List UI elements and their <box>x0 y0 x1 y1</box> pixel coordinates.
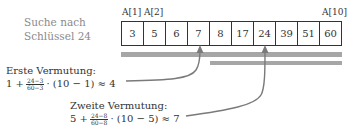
second-guess-arrowhead <box>262 45 269 53</box>
second-guess-arrow <box>186 50 265 116</box>
arrows-layer <box>0 0 360 139</box>
first-guess-arrow <box>126 50 200 81</box>
first-guess-arrowhead <box>197 45 204 53</box>
